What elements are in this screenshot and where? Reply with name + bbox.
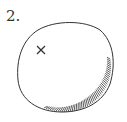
hatch-stroke <box>99 86 104 92</box>
shading-hatching <box>44 57 111 112</box>
hatch-stroke <box>83 100 84 107</box>
hatch-stroke <box>102 81 107 86</box>
hatch-stroke <box>72 105 73 112</box>
hatch-stroke <box>103 80 108 84</box>
hatch-stroke <box>74 104 75 111</box>
hatch-stroke <box>94 92 98 99</box>
hatch-stroke <box>95 91 99 97</box>
hatch-stroke <box>97 88 101 94</box>
hatch-stroke <box>81 101 82 108</box>
x-marker-icon <box>37 46 45 54</box>
hatch-stroke <box>98 87 102 93</box>
sphere-diagram <box>0 0 127 122</box>
hatch-stroke <box>96 90 100 96</box>
hatch-stroke <box>100 84 105 89</box>
hatch-stroke <box>76 104 77 111</box>
hatch-stroke <box>84 100 85 107</box>
hatch-stroke <box>86 99 88 106</box>
sphere-outline <box>18 23 114 113</box>
hatch-stroke <box>103 78 108 82</box>
hatch-stroke <box>101 83 106 88</box>
hatch-stroke <box>70 105 72 111</box>
